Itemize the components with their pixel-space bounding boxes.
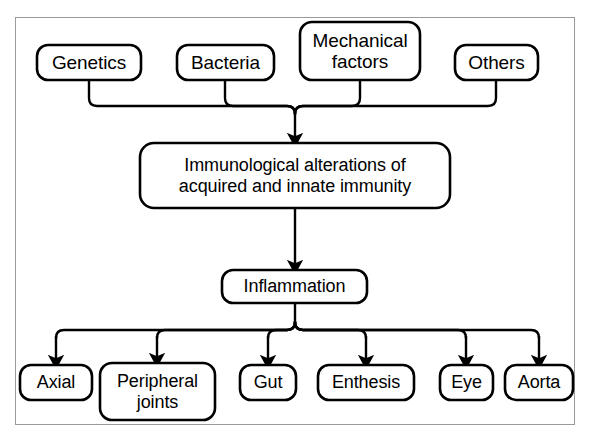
connector-layer <box>0 0 592 442</box>
box-aorta <box>505 365 573 400</box>
outcome-arrowheads <box>56 336 539 362</box>
connector-bus-to-aorta <box>295 322 539 338</box>
box-bacteria <box>177 45 274 80</box>
box-genetics <box>37 45 141 80</box>
flowchart-figure: Genetics Bacteria Mechanical factors Oth… <box>0 0 592 442</box>
box-immunological-alterations <box>140 143 450 208</box>
box-gut <box>240 365 296 400</box>
box-mechanical-factors <box>300 22 420 80</box>
connector-mechanical-to-bus <box>295 80 360 114</box>
box-eye <box>440 365 493 400</box>
connector-bacteria-to-bus <box>225 80 295 114</box>
box-peripheral-joints <box>100 363 215 420</box>
box-enthesis <box>318 365 414 400</box>
box-inflammation <box>222 270 367 303</box>
connector-others-to-bus <box>295 80 496 114</box>
outcome-connectors-group <box>56 303 539 338</box>
box-axial <box>20 365 92 400</box>
connector-bus-to-gut <box>268 322 295 338</box>
node-boxes-group <box>20 22 573 420</box>
box-others <box>455 45 538 80</box>
cause-connectors-group <box>89 80 496 114</box>
connector-genetics-to-bus <box>89 80 295 114</box>
